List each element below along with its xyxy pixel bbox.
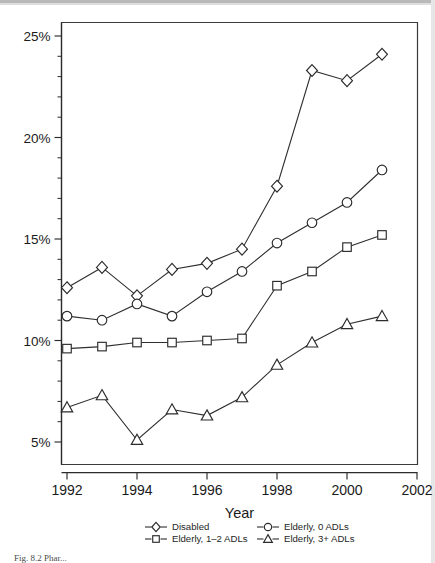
data-point <box>237 243 248 255</box>
data-point <box>342 75 353 87</box>
legend-label: Disabled <box>172 521 209 532</box>
x-axis: 199219941996199820002002 <box>51 473 432 498</box>
y-axis: 5%10%15%20%25% <box>23 23 61 465</box>
data-point <box>202 257 213 269</box>
y-tick-label: 5% <box>31 435 51 450</box>
series-square <box>63 231 387 353</box>
data-point <box>342 198 352 208</box>
data-point <box>307 218 317 228</box>
data-point <box>378 231 387 240</box>
chart-legend: DisabledElderly, 0 ADLsElderly, 1–2 ADLs… <box>145 521 355 544</box>
data-point <box>271 359 282 369</box>
legend-item: Elderly, 0 ADLs <box>257 521 349 532</box>
data-point <box>376 310 387 320</box>
y-tick-label: 10% <box>23 334 50 349</box>
data-point <box>203 336 212 345</box>
data-point <box>272 180 283 192</box>
data-point <box>273 281 282 290</box>
x-tick-label: 1992 <box>51 482 82 498</box>
data-point <box>272 238 282 248</box>
x-tick-label: 2000 <box>331 482 362 498</box>
data-point <box>61 402 72 412</box>
data-point <box>202 287 212 297</box>
data-point <box>97 315 107 325</box>
legend-label: Elderly, 1–2 ADLs <box>172 533 248 544</box>
x-axis-title-label: Year <box>225 505 254 521</box>
legend-label: Elderly, 0 ADLs <box>284 521 349 532</box>
data-point <box>343 243 352 252</box>
data-point <box>377 165 387 175</box>
data-point <box>133 338 142 347</box>
line-chart: 5%10%15%20%25% 199219941996199820002002 … <box>0 0 435 563</box>
legend-marker-square <box>153 536 160 543</box>
legend-marker-diamond <box>152 522 160 531</box>
x-tick-label: 1998 <box>261 482 292 498</box>
data-series-layer <box>61 48 387 444</box>
data-point <box>62 311 72 321</box>
data-point <box>167 311 177 321</box>
data-point <box>132 299 142 309</box>
figure-container: 5%10%15%20%25% 199219941996199820002002 … <box>0 0 435 563</box>
series-line <box>67 235 382 349</box>
x-axis-title: Year <box>225 505 254 521</box>
data-point <box>167 263 178 275</box>
y-tick-label: 20% <box>23 131 50 146</box>
data-point <box>63 344 72 353</box>
legend-item: Disabled <box>145 521 209 532</box>
data-point <box>238 334 247 343</box>
data-point <box>237 267 247 277</box>
y-tick-label: 15% <box>23 232 50 247</box>
series-circle <box>62 165 387 325</box>
data-point <box>96 390 107 400</box>
series-triangle <box>61 310 387 444</box>
data-point <box>306 337 317 347</box>
data-point <box>308 267 317 276</box>
series-diamond <box>62 48 388 302</box>
series-line <box>67 170 382 320</box>
x-tick-label: 1996 <box>191 482 222 498</box>
legend-marker-circle <box>264 523 271 530</box>
figure-caption: Fig. 8.2 Phar... <box>14 553 424 563</box>
data-point <box>168 338 177 347</box>
x-tick-label: 2002 <box>401 482 432 498</box>
data-point <box>166 404 177 414</box>
legend-marker-triangle <box>264 535 273 543</box>
series-line <box>67 54 382 296</box>
data-point <box>307 65 318 77</box>
legend-item: Elderly, 1–2 ADLs <box>145 533 248 544</box>
series-line <box>67 316 382 440</box>
y-tick-label: 25% <box>23 29 50 44</box>
data-point <box>98 342 107 351</box>
legend-item: Elderly, 3+ ADLs <box>257 533 355 544</box>
data-point <box>377 48 388 60</box>
data-point <box>62 282 73 294</box>
x-tick-label: 1994 <box>121 482 152 498</box>
legend-label: Elderly, 3+ ADLs <box>284 533 355 544</box>
data-point <box>97 261 108 273</box>
